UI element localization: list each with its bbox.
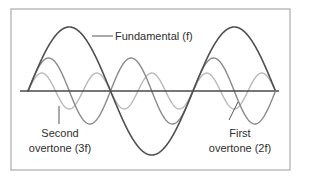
first-overtone-label-line2: overtone (2f)	[200, 142, 280, 154]
second-overtone-label-line1: Second	[20, 127, 100, 139]
second-overtone-label-line2: overtone (3f)	[20, 142, 100, 154]
first-overtone-label-line1: First	[200, 127, 280, 139]
fundamental-label: Fundamental (f)	[115, 30, 193, 42]
second-overtone-label: Second overtone (3f)	[20, 127, 100, 154]
first-overtone-label: First overtone (2f)	[200, 127, 280, 154]
